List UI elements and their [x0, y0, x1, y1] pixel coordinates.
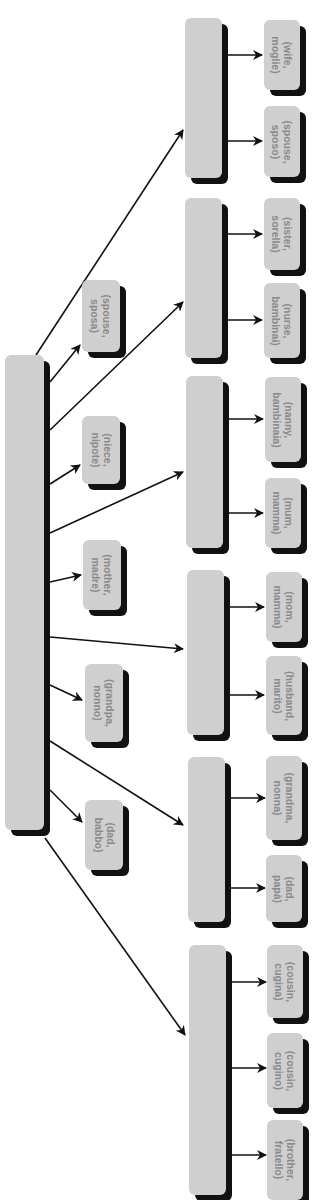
- leaf-node-leaf-wife-moglie: (wife, moglie): [264, 20, 300, 90]
- node-label: (spouse, sposo): [270, 120, 294, 163]
- middle-node-mid-dad-babbo: (dad, babbo): [85, 800, 123, 870]
- group-node-group-2: [185, 198, 222, 358]
- arrow-5: [50, 575, 81, 582]
- leaf-node-leaf-mum-mamma: (mum, mamma): [265, 478, 301, 548]
- leaf-node-leaf-mom-mamma: (mom, mamma): [266, 572, 302, 642]
- group-node-group-1: [185, 18, 222, 178]
- arrow-6: [50, 637, 183, 649]
- node-label: (mother, madre): [90, 554, 114, 595]
- node-label: (cousin, cugina): [273, 961, 297, 1001]
- node-label: (nurse, bambinai): [270, 296, 294, 346]
- arrow-1: [50, 345, 80, 382]
- leaf-node-leaf-cousin-cugino: (cousin, cugino): [267, 1033, 303, 1108]
- arrow-7: [50, 685, 82, 700]
- node-label: (sister, sorella): [270, 215, 294, 252]
- node-label: (dad, babbo): [92, 818, 116, 853]
- node-label: (husband, marito): [272, 670, 296, 720]
- leaf-node-leaf-nurse-bambinai: (nurse, bambinai): [264, 283, 300, 358]
- group-node-group-4: [187, 570, 224, 735]
- group-node-group-3: [186, 376, 223, 548]
- middle-node-mid-mother-madre: (mother, madre): [83, 540, 121, 610]
- leaf-node-leaf-brother-fratello: (brother, fratello): [267, 1120, 303, 1200]
- middle-node-mid-niece-nipote: (niece, nipote): [82, 416, 120, 484]
- root-node: [5, 355, 44, 830]
- node-label: (mom, mamma): [272, 585, 296, 628]
- node-label: (grandma, nonna): [272, 773, 296, 824]
- middle-node-mid-grandpa-nonno: (grandpa, nonno): [85, 664, 123, 742]
- node-label: (brother, fratello): [273, 1139, 297, 1182]
- arrow-layer: [36, 55, 266, 1155]
- leaf-node-leaf-sister-sorella: (sister, sorella): [264, 198, 300, 270]
- leaf-node-leaf-cousin-cugina: (cousin, cugina): [267, 945, 303, 1018]
- node-label: (cousin, cugino): [273, 1050, 297, 1090]
- leaf-node-leaf-dad-papa: (dad, papà): [266, 855, 302, 922]
- node-label: (wife, moglie): [270, 36, 294, 73]
- middle-node-mid-spouse-sposa: (spouse, sposa): [82, 280, 120, 352]
- node-label: (nanny, bambinaia): [271, 392, 295, 447]
- node-label: (dad, papà): [272, 874, 296, 902]
- group-node-group-5: [188, 757, 225, 922]
- arrow-3: [50, 465, 80, 484]
- leaf-node-leaf-husband-marito: (husband, marito): [266, 656, 302, 735]
- arrow-9: [50, 790, 82, 822]
- node-label: (niece, nipote): [89, 433, 113, 468]
- node-label: (grandpa, nonno): [92, 679, 116, 727]
- leaf-node-leaf-grandma-nonna: (grandma, nonna): [266, 756, 302, 840]
- leaf-node-leaf-nanny-bambinaia: (nanny, bambinaia): [265, 377, 301, 462]
- group-node-group-6: [189, 945, 226, 1195]
- node-label: (mum, mamma): [271, 491, 295, 534]
- leaf-node-leaf-spouse-sposo: (spouse, sposo): [264, 106, 300, 177]
- node-label: (spouse, sposa): [89, 294, 113, 337]
